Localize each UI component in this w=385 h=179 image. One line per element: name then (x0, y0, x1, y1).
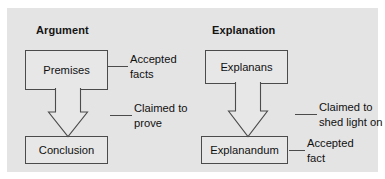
block-arrow-down-icon-argument (48, 88, 88, 138)
annotation-accepted-facts: Accepted facts (130, 52, 177, 81)
annotation-accepted-facts-line2: facts (130, 67, 177, 82)
node-premises: Premises (25, 50, 108, 90)
annotation-accepted-facts-line1: Accepted (130, 52, 177, 67)
annotation-shed-light-line2: shed light on (319, 115, 382, 130)
annotation-claimed-to-prove-line2: prove (134, 116, 187, 131)
annotation-accepted-fact-line1: Accepted (307, 136, 354, 151)
diagram-stage: Argument Explanation Premises Conclusion… (7, 8, 378, 172)
annotation-claimed-to-prove: Claimed to prove (134, 101, 187, 130)
diagram-figure: Argument Explanation Premises Conclusion… (7, 8, 378, 172)
panel-title-argument: Argument (36, 24, 89, 37)
node-premises-label: Premises (43, 64, 90, 77)
panel-title-explanation: Explanation (212, 24, 275, 37)
node-conclusion-label: Conclusion (39, 144, 94, 157)
node-conclusion: Conclusion (25, 136, 108, 164)
leader-line-shed-light-on (295, 114, 317, 115)
node-explanans-label: Explanans (220, 61, 272, 74)
annotation-accepted-fact: Accepted fact (307, 136, 354, 165)
annotation-accepted-fact-line2: fact (307, 151, 354, 166)
annotation-claimed-to-shed-light-on: Claimed to shed light on (319, 100, 382, 129)
annotation-claimed-to-prove-line1: Claimed to (134, 101, 187, 116)
node-explanandum: Explanandum (201, 136, 288, 164)
leader-line-accepted-fact (289, 150, 305, 151)
leader-line-accepted-facts (108, 66, 128, 67)
annotation-shed-light-line1: Claimed to (319, 100, 382, 115)
leader-line-claimed-to-prove (110, 115, 132, 116)
node-explanandum-label: Explanandum (210, 144, 278, 157)
node-explanans: Explanans (205, 50, 288, 84)
block-arrow-down-icon-explanation (228, 82, 268, 138)
